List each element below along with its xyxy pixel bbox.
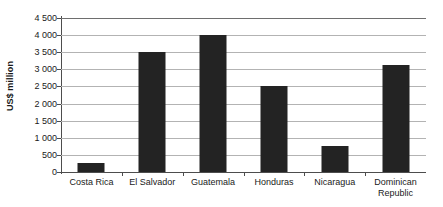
y-tick-mark (57, 35, 61, 36)
x-tick-mark (244, 172, 245, 176)
y-tick-label: 2 000 (11, 99, 57, 108)
bar-slot (304, 18, 365, 172)
y-tick-mark (57, 121, 61, 122)
x-tick-mark (304, 172, 305, 176)
bar[interactable] (200, 35, 227, 172)
y-tick-label: 4 000 (11, 31, 57, 40)
y-tick-label: 500 (11, 150, 57, 159)
y-tick-label: 0 (11, 168, 57, 177)
y-tick-mark (57, 104, 61, 105)
bar[interactable] (321, 146, 348, 172)
y-tick-label: 4 500 (11, 14, 57, 23)
plot-area (61, 18, 426, 172)
x-tick-label: Costa Rica (61, 177, 122, 188)
y-tick-label: 3 500 (11, 48, 57, 57)
x-tick-mark (365, 172, 366, 176)
bar[interactable] (382, 65, 409, 172)
y-tick-label: 1 500 (11, 116, 57, 125)
bar-slot (183, 18, 244, 172)
y-tick-mark (57, 155, 61, 156)
y-tick-mark (57, 86, 61, 87)
bar-slot (244, 18, 305, 172)
x-axis-tick-labels: Costa RicaEl SalvadorGuatemalaHondurasNi… (61, 177, 426, 207)
y-tick-mark (57, 172, 61, 173)
y-tick-mark (57, 52, 61, 53)
bar-slot (365, 18, 426, 172)
y-tick-label: 1 000 (11, 133, 57, 142)
bar-slot (122, 18, 183, 172)
x-tick-label: Guatemala (183, 177, 244, 188)
x-tick-mark (183, 172, 184, 176)
y-tick-label: 2 500 (11, 82, 57, 91)
y-tick-mark (57, 138, 61, 139)
x-tick-label: Honduras (244, 177, 305, 188)
bar-slot (61, 18, 122, 172)
bar[interactable] (139, 52, 166, 172)
bar-chart-figure: US$ million 05001 0001 5002 0002 5003 00… (0, 0, 443, 207)
bar[interactable] (78, 163, 105, 172)
bar[interactable] (260, 86, 287, 172)
x-tick-label: El Salvador (122, 177, 183, 188)
y-tick-mark (57, 18, 61, 19)
x-tick-mark (122, 172, 123, 176)
x-tick-label: Dominican Republic (365, 177, 426, 199)
y-tick-label: 3 000 (11, 65, 57, 74)
y-axis-tick-labels: 05001 0001 5002 0002 5003 0003 5004 0004… (8, 18, 57, 172)
y-tick-mark (57, 69, 61, 70)
x-tick-label: Nicaragua (304, 177, 365, 188)
